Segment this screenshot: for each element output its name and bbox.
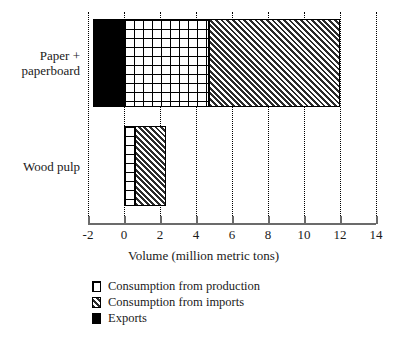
category-label-paper-paperboard: Paper + paperboard (0, 48, 80, 78)
gridline-x-14 (376, 12, 377, 222)
x-tick-label-14: 14 (370, 227, 383, 242)
legend-swatch-solid-icon (92, 313, 101, 324)
x-tick-6 (232, 216, 234, 224)
legend-item-consumption-from-production: Consumption from production (92, 278, 260, 294)
x-tick-label-8: 8 (265, 227, 272, 242)
legend-label-exports: Exports (108, 310, 147, 326)
x-tick--2 (88, 216, 90, 224)
legend-label-consumption-from-production: Consumption from production (108, 278, 260, 294)
x-tick-4 (196, 216, 198, 224)
gridline-x-12 (340, 12, 341, 222)
x-tick-label-0: 0 (121, 227, 128, 242)
x-tick-12 (340, 216, 342, 224)
x-tick-10 (304, 216, 306, 224)
bar-paper-consumption-production (124, 19, 209, 107)
legend-label-consumption-from-imports: Consumption from imports (108, 294, 244, 310)
bar-woodpulp-consumption-imports (135, 126, 166, 206)
x-tick-label--2: -2 (83, 227, 94, 242)
chart-legend: Consumption from production Consumption … (92, 278, 260, 326)
category-label-paper-line2: paperboard (0, 63, 80, 78)
bar-paper-exports (93, 19, 124, 107)
bar-paper-consumption-imports (209, 19, 340, 107)
x-tick-0 (124, 216, 126, 224)
category-label-paper-line1: Paper + (0, 48, 80, 63)
x-tick-label-2: 2 (157, 227, 164, 242)
x-tick-8 (268, 216, 270, 224)
x-tick-label-6: 6 (229, 227, 236, 242)
legend-swatch-grid-icon (92, 281, 101, 292)
chart-container: Paper + paperboard Wood pulp -2 0 2 4 6 … (0, 0, 407, 340)
bar-woodpulp-consumption-production (124, 126, 135, 206)
legend-swatch-hatch-icon (92, 297, 101, 308)
gridline-x--2 (88, 12, 89, 222)
x-tick-14 (376, 216, 378, 224)
x-tick-label-12: 12 (334, 227, 347, 242)
plot-area: Paper + paperboard Wood pulp -2 0 2 4 6 … (0, 0, 407, 340)
legend-item-consumption-from-imports: Consumption from imports (92, 294, 260, 310)
category-label-woodpulp-line1: Wood pulp (0, 159, 80, 174)
x-tick-label-10: 10 (298, 227, 311, 242)
x-tick-label-4: 4 (193, 227, 200, 242)
x-axis-title: Volume (million metric tons) (0, 248, 407, 264)
category-label-wood-pulp: Wood pulp (0, 159, 80, 174)
legend-item-exports: Exports (92, 310, 260, 326)
x-tick-2 (160, 216, 162, 224)
